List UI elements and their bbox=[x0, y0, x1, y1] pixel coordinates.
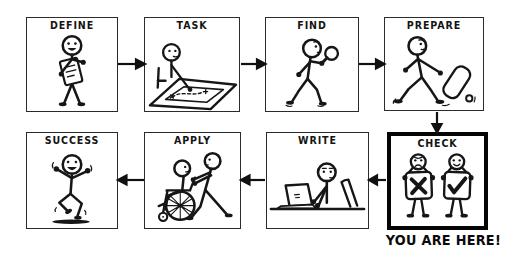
panel-write: WRITE bbox=[266, 132, 369, 229]
panel-label-prepare: PREPARE bbox=[407, 20, 461, 32]
apply-illustration bbox=[145, 146, 240, 228]
panel-find: FIND bbox=[265, 17, 359, 112]
arrow-check-to-write bbox=[369, 176, 386, 185]
wheelchair-icon bbox=[159, 178, 195, 221]
task-illustration bbox=[145, 31, 239, 111]
arrow-prepare-to-check bbox=[433, 112, 442, 133]
flowchart-diagram: DEFINE TASK bbox=[0, 0, 513, 258]
panel-define: DEFINE bbox=[26, 17, 118, 112]
panel-apply: APPLY bbox=[144, 132, 241, 229]
magnifying-glass-icon bbox=[322, 47, 338, 63]
x-sign-icon bbox=[405, 172, 432, 200]
panel-check: CHECK bbox=[387, 132, 488, 230]
you-are-here-label: YOU ARE HERE! bbox=[386, 232, 490, 248]
suitcase-wheel-icon bbox=[466, 95, 472, 101]
arrow-define-to-task bbox=[118, 60, 145, 69]
panel-prepare: PREPARE bbox=[384, 17, 484, 111]
chair-icon bbox=[342, 180, 358, 207]
arrow-find-to-prepare bbox=[359, 60, 385, 69]
panel-task: TASK bbox=[144, 17, 240, 112]
arrow-write-to-apply bbox=[241, 176, 265, 185]
arrow-apply-to-success bbox=[118, 176, 144, 185]
panel-label-apply: APPLY bbox=[174, 135, 211, 147]
panel-label-write: WRITE bbox=[298, 135, 337, 147]
arrow-task-to-find bbox=[241, 60, 266, 69]
laptop-icon bbox=[277, 184, 316, 208]
panel-label-find: FIND bbox=[297, 20, 326, 32]
panel-label-success: SUCCESS bbox=[45, 135, 100, 147]
check-sign-icon bbox=[444, 172, 471, 200]
check-illustration bbox=[391, 149, 484, 226]
panel-label-task: TASK bbox=[177, 20, 208, 32]
write-illustration bbox=[267, 146, 368, 228]
find-illustration bbox=[266, 31, 358, 111]
panel-label-define: DEFINE bbox=[50, 20, 94, 32]
shadow bbox=[52, 220, 89, 224]
define-illustration bbox=[27, 31, 117, 111]
prepare-illustration bbox=[385, 31, 483, 110]
panel-success: SUCCESS bbox=[26, 132, 118, 229]
success-illustration bbox=[27, 146, 117, 228]
panel-label-check: CHECK bbox=[417, 138, 457, 150]
